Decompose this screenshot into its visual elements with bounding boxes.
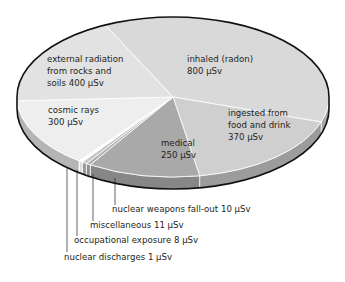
slice-label-ingested-from-food-and-drink: food and drink — [228, 120, 290, 130]
pie-side-nuclear-weapons-fall-out — [86, 164, 90, 177]
slice-label-ingested-from-food-and-drink: 370 µSv — [228, 132, 263, 142]
slice-label-inhaled-radon: inhaled (radon) — [187, 54, 253, 64]
slice-label-inhaled-radon: 800 µSv — [187, 66, 222, 76]
slice-label-external-radiation-from-rocks-and-soils: soils 400 µSv — [47, 78, 104, 88]
slice-label-cosmic-rays: cosmic rays — [48, 105, 100, 115]
slice-label-external-radiation-from-rocks-and-soils: external radiation — [47, 54, 123, 64]
slice-label-ingested-from-food-and-drink: ingested from — [228, 108, 288, 118]
pie-side-occupational-exposure — [79, 161, 82, 174]
slice-label-external-radiation-from-rocks-and-soils: from rocks and — [47, 66, 111, 76]
pie-chart: inhaled (radon)800 µSvingested fromfood … — [0, 0, 345, 282]
slice-label-medical: medical — [161, 138, 195, 148]
callout-label-miscellaneous: miscellaneous 11 µSv — [90, 220, 184, 230]
slice-label-cosmic-rays: 300 µSv — [48, 117, 83, 127]
callout-label-nuclear-discharges: nuclear discharges 1 µSv — [64, 252, 172, 262]
callout-label-occupational-exposure: occupational exposure 8 µSv — [74, 235, 198, 245]
slice-label-medical: 250 µSv — [161, 150, 196, 160]
callout-label-nuclear-weapons-fall-out: nuclear weapons fall-out 10 µSv — [112, 204, 251, 214]
